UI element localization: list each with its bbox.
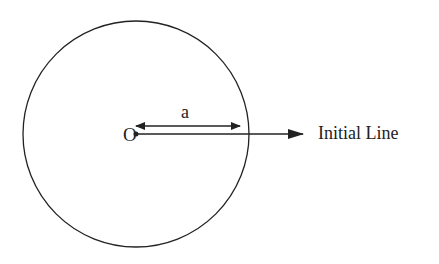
initial-line-label: Initial Line bbox=[318, 123, 398, 144]
origin-label: O bbox=[123, 124, 137, 146]
radius-label: a bbox=[181, 102, 189, 123]
